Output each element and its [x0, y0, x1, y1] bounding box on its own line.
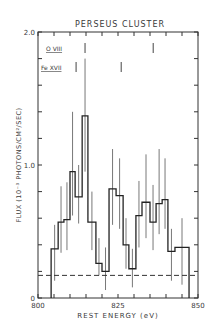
chart: PERSEUS CLUSTER 01.02.0 800825850 REST E…	[0, 0, 211, 332]
y-tick-labels: 01.02.0	[24, 29, 35, 303]
x-tick-label: 850	[191, 302, 204, 310]
y-axis-label: FLUX (10⁻³ PHOTONS/CM²/SEC)	[15, 107, 23, 222]
x-tick-label: 800	[31, 302, 44, 310]
flux-histogram	[51, 116, 189, 298]
chart-title: PERSEUS CLUSTER	[75, 20, 165, 29]
annotation-label: O VIII	[46, 45, 62, 52]
x-tick-label: 825	[111, 302, 124, 310]
annotation-label: Fe XVII	[41, 64, 62, 71]
axis-ticks	[38, 32, 198, 298]
y-tick-label: 1.0	[24, 162, 35, 170]
error-bars	[55, 59, 182, 290]
line-annotations: O VIIIFe XVII	[41, 43, 153, 72]
plot-frame	[38, 32, 198, 298]
y-tick-label: 2.0	[24, 29, 35, 37]
x-tick-labels: 800825850	[31, 302, 204, 310]
x-axis-label: REST ENERGY (eV)	[77, 312, 158, 320]
